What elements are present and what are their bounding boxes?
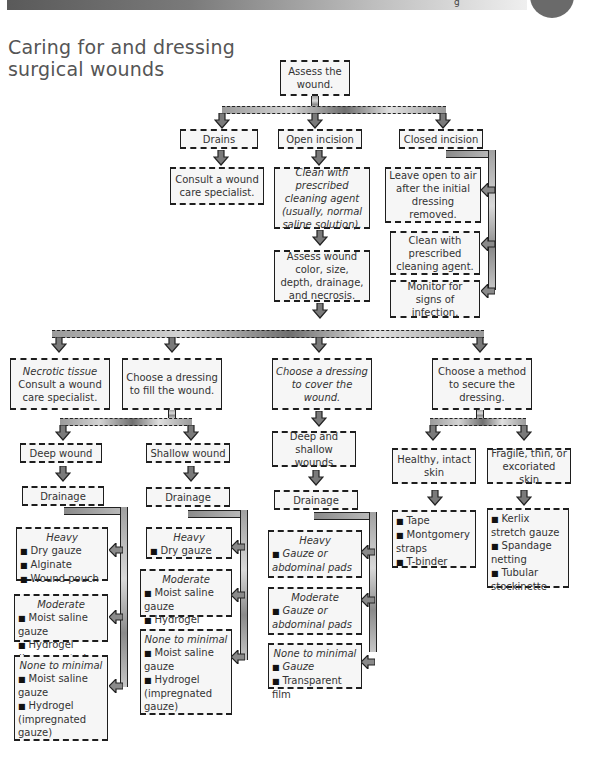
list-item: Transparent film <box>272 674 358 701</box>
healthy-skin-box: Healthy, intact skin <box>392 448 476 484</box>
deep-wound-box: Deep wound <box>20 443 102 463</box>
down-arrow-icon <box>55 425 71 441</box>
header-glyph: g <box>454 0 460 7</box>
monitor-infection-text: Monitor for signs of infection. <box>394 280 476 319</box>
assess-wound-box: Assess the wound. <box>280 60 350 96</box>
assess-wound-text: Assess the wound. <box>284 65 346 91</box>
branch-bar-level2 <box>52 330 484 338</box>
necrotic-body: Consult a wound care specialist. <box>14 378 106 404</box>
list-item: Tape <box>396 514 472 528</box>
list-item: Moist saline gauze <box>18 611 104 638</box>
deep-drainage-connector <box>64 507 126 515</box>
down-arrow-icon <box>183 425 199 441</box>
shallow-minimal-heading: None to minimal <box>144 633 228 646</box>
list-item: Moist saline gauze <box>144 646 228 673</box>
down-arrow-icon <box>427 490 443 506</box>
consult-specialist-text: Consult a wound care specialist. <box>174 173 260 199</box>
list-item: Tubular stockinette <box>491 566 565 593</box>
fragile-skin-label: Fragile, thin, or excoriated skin <box>491 447 567 486</box>
secure-branch-bar <box>430 418 526 426</box>
necrotic-heading: Necrotic tissue <box>14 365 106 378</box>
open-incision-label: Open incision <box>282 133 358 146</box>
down-arrow-icon <box>312 303 328 319</box>
choose-secure-method-box: Choose a method to secure the dressing. <box>432 358 532 410</box>
shallow-side-line <box>240 510 248 660</box>
deep-shallow-wounds-box: Deep and shallow wounds <box>272 431 356 467</box>
deep-drainage-box: Drainage <box>22 486 104 506</box>
shallow-wound-label: Shallow wound <box>150 447 226 460</box>
shallow-minimal-box: None to minimal Moist saline gauze Hydro… <box>140 629 232 715</box>
deep-moderate-box: Moderate Moist saline gauze Hydrogel (im… <box>14 594 108 642</box>
fill-branch-bar <box>60 418 192 426</box>
shallow-heavy-box: Heavy Dry gauze <box>146 527 232 559</box>
closed-incision-box: Closed incision <box>399 129 483 149</box>
deep-wound-label: Deep wound <box>24 447 98 460</box>
left-arrow-icon <box>109 610 123 624</box>
down-arrow-icon <box>311 411 327 427</box>
secure-text: Choose a method to secure the dressing. <box>436 365 528 404</box>
down-arrow-icon <box>435 113 451 129</box>
cover-text: Choose a dressing to cover the wound. <box>276 365 368 404</box>
list-item: Hydrogel (impregnated gauze) <box>18 699 104 739</box>
shallow-moderate-heading: Moderate <box>144 573 228 586</box>
cover-heavy-box: Heavy Gauze or abdominal pads <box>268 530 362 578</box>
header-bar: g <box>7 0 527 10</box>
down-arrow-icon <box>51 337 67 353</box>
list-item: Dry gauze <box>150 544 228 558</box>
down-arrow-icon <box>55 466 71 482</box>
left-arrow-icon <box>109 543 123 557</box>
drains-box: Drains <box>180 129 258 149</box>
branch-bar-top <box>222 106 446 114</box>
down-arrow-icon <box>164 337 180 353</box>
title-line-2: surgical wounds <box>8 58 235 80</box>
clean-prescribed-box: Clean with prescribed cleaning agent. <box>390 231 480 275</box>
down-arrow-icon <box>516 425 532 441</box>
list-item: Hydrogel (impregnated gauze) <box>144 673 228 713</box>
down-arrow-icon <box>472 337 488 353</box>
cover-drainage-label: Drainage <box>278 494 354 507</box>
leave-open-text: Leave open to air after the initial dres… <box>389 169 477 221</box>
down-arrow-icon <box>183 466 199 482</box>
consult-specialist-box: Consult a wound care specialist. <box>170 167 264 205</box>
cover-minimal-box: None to minimal Gauze Transparent film <box>268 643 362 689</box>
fill-text: Choose a dressing to fill the wound. <box>126 371 218 397</box>
deep-minimal-heading: None to minimal <box>18 659 104 672</box>
healthy-skin-options-box: Tape Montgomery straps T-binder <box>392 510 476 568</box>
left-arrow-icon <box>361 655 375 669</box>
choose-fill-dressing-box: Choose a dressing to fill the wound. <box>122 358 222 410</box>
down-arrow-icon <box>307 113 323 129</box>
down-arrow-icon <box>311 150 327 166</box>
list-item: Kerlix stretch gauze <box>491 512 565 539</box>
closed-connector <box>446 150 494 158</box>
list-item: Moist saline gauze <box>18 672 104 699</box>
list-item: Moist saline gauze <box>144 586 228 613</box>
connector <box>168 410 176 418</box>
necrotic-tissue-box: Necrotic tissue Consult a wound care spe… <box>10 358 110 410</box>
assess-wound-color-box: Assess wound color, size, depth, drainag… <box>274 250 370 302</box>
drains-label: Drains <box>184 133 254 146</box>
list-item: Gauze <box>272 660 358 674</box>
clean-prescribed-agent-box: Clean with prescribed cleaning agent (us… <box>274 167 370 229</box>
deep-minimal-box: None to minimal Moist saline gauze Hydro… <box>14 655 108 741</box>
closed-incision-label: Closed incision <box>403 133 479 146</box>
down-arrow-icon <box>214 113 230 129</box>
monitor-infection-box: Monitor for signs of infection. <box>390 280 480 318</box>
left-arrow-icon <box>361 593 375 607</box>
left-arrow-icon <box>481 284 495 298</box>
healthy-skin-label: Healthy, intact skin <box>396 453 472 479</box>
cover-drainage-box: Drainage <box>274 490 358 510</box>
left-arrow-icon <box>481 237 495 251</box>
closed-side-line <box>488 150 496 290</box>
page-tab-circle <box>530 0 574 18</box>
list-item: Dry gauze <box>20 544 104 558</box>
left-arrow-icon <box>481 183 495 197</box>
cover-moderate-heading: Moderate <box>272 591 358 604</box>
left-arrow-icon <box>231 588 245 602</box>
deep-heavy-box: Heavy Dry gauze Alginate Wound pouch <box>16 527 108 581</box>
deep-drainage-label: Drainage <box>26 490 100 503</box>
cover-drainage-connector <box>314 512 374 520</box>
list-item: Alginate <box>20 558 104 572</box>
shallow-drainage-box: Drainage <box>146 487 230 507</box>
cover-heavy-heading: Heavy <box>272 534 358 547</box>
list-item: T-binder <box>396 555 472 569</box>
